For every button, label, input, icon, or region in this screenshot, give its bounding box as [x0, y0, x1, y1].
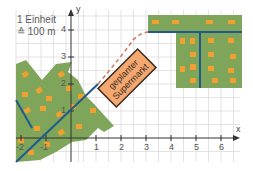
y-tick-labels: 1 2 3 4: [61, 0, 71, 171]
scale-legend-line2: ≙ 100 m: [17, 26, 56, 38]
x-tick: 4: [169, 142, 174, 152]
y-tick: 3: [61, 51, 66, 61]
y-tick: 1: [61, 105, 66, 115]
y-axis-label: y: [76, 4, 81, 14]
residential-area-right: [148, 15, 242, 88]
x-tick: -1: [40, 142, 48, 152]
y-tick: 2: [61, 78, 66, 88]
scale-legend: 1 Einheit ≙ 100 m: [17, 14, 56, 38]
x-tick: -2: [16, 142, 24, 152]
x-tick: 1: [94, 142, 99, 152]
y-tick: 4: [61, 24, 66, 34]
x-arrow-icon: [233, 135, 240, 141]
scale-legend-line1: 1 Einheit: [17, 14, 56, 26]
x-tick: 3: [144, 142, 149, 152]
x-tick: 2: [119, 142, 124, 152]
x-tick-labels: -2 -1 1 2 3 4 5 6: [0, 142, 253, 154]
x-tick: 6: [219, 142, 224, 152]
x-tick: 5: [194, 142, 199, 152]
x-axis-label: x: [236, 124, 241, 134]
coordinate-map: 1 Einheit ≙ 100 m y x -2 -1 1 2 3 4 5 6 …: [0, 0, 253, 171]
